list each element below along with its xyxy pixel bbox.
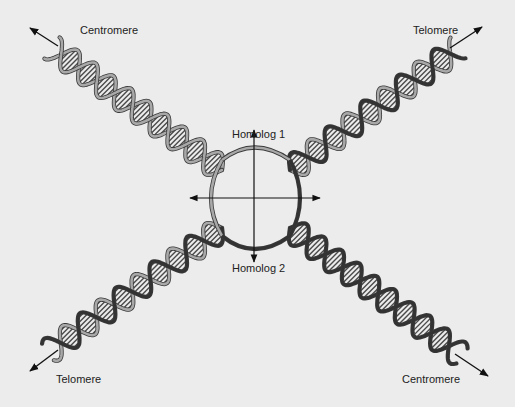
- label-telomere-bottom-left: Telomere: [56, 373, 101, 385]
- label-centromere-top-left: Centromere: [80, 24, 138, 36]
- arm-top-right: [249, 38, 491, 184]
- label-centromere-bottom-right: Centromere: [402, 373, 460, 385]
- holliday-junction-diagram: [0, 0, 515, 407]
- dna-arms: [20, 37, 492, 364]
- label-homolog-2: Homolog 2: [232, 262, 285, 274]
- label-homolog-1: Homolog 1: [232, 128, 285, 140]
- label-telomere-top-right: Telomere: [413, 24, 458, 36]
- arm-bottom-left: [20, 214, 263, 360]
- arrow-top-left: [30, 28, 58, 46]
- arm-top-left: [20, 37, 263, 183]
